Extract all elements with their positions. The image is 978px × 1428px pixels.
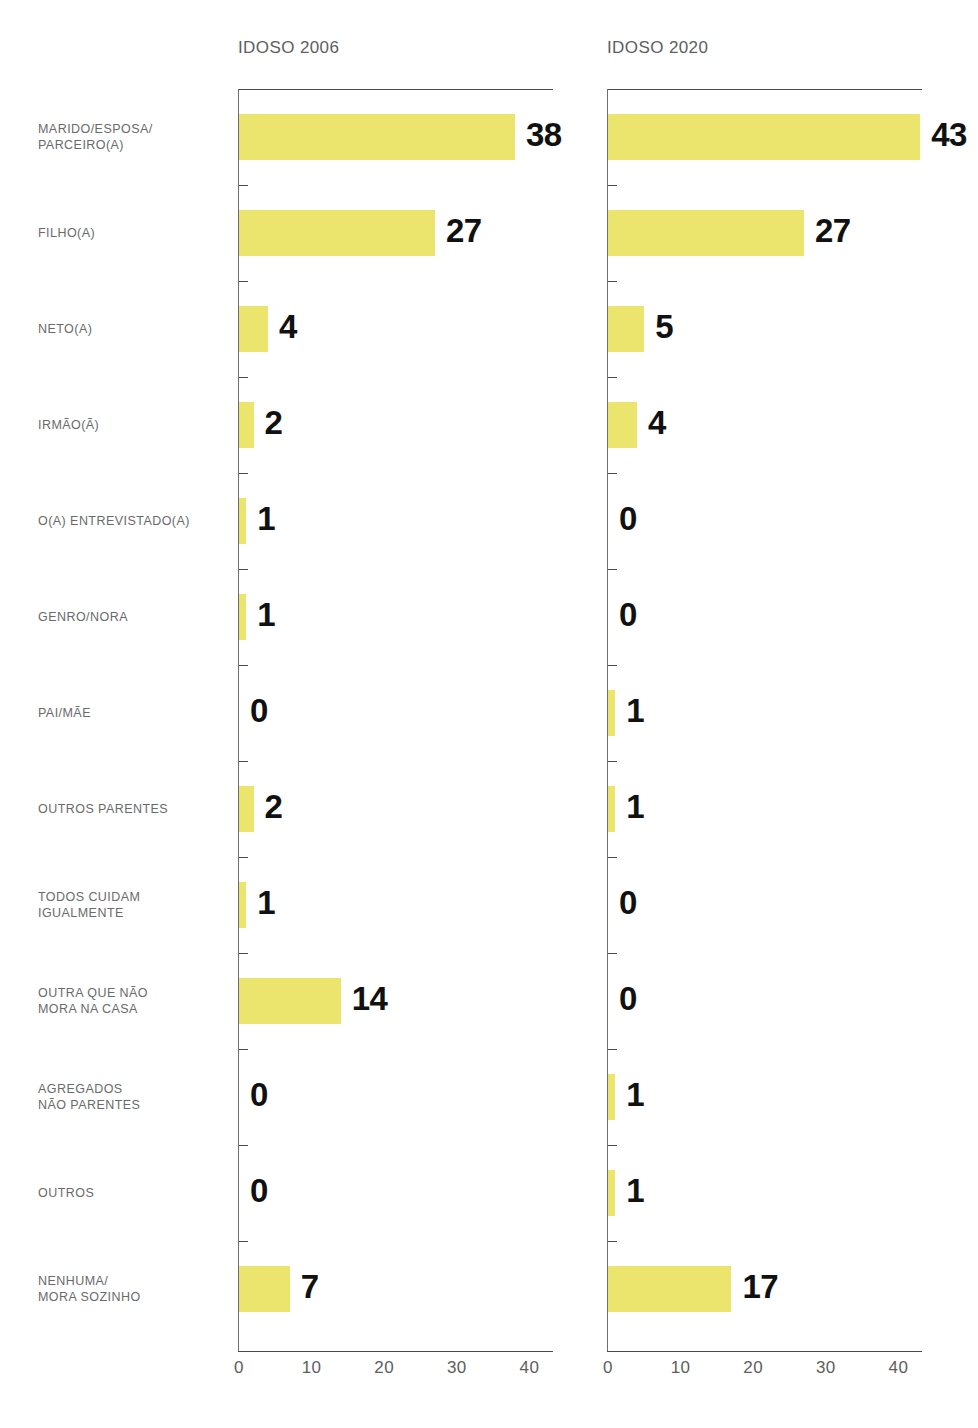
bar-value-label: 27: [446, 207, 482, 255]
x-axis-tick-label: 40: [889, 1358, 909, 1378]
y-axis-tick: [239, 1241, 248, 1242]
bar-row: 1: [238, 857, 554, 953]
bar-row: 1: [607, 1145, 923, 1241]
bar-value-label: 1: [626, 1071, 644, 1119]
bar: [239, 114, 515, 160]
x-axis-ticks-idoso-2006: 010203040: [238, 1358, 568, 1388]
y-axis-tick: [239, 1145, 248, 1146]
category-label: OUTROS PARENTES: [38, 761, 228, 857]
bar-value-label: 0: [250, 1071, 268, 1119]
bar-row: 14: [238, 953, 554, 1049]
bar-row: 1: [238, 473, 554, 569]
category-label: IRMÃO(Ã): [38, 377, 228, 473]
bar: [239, 402, 254, 448]
bar-row: 2: [238, 377, 554, 473]
panel-title-idoso-2020: IDOSO 2020: [607, 38, 708, 58]
x-axis-ticks-idoso-2020: 010203040: [607, 1358, 937, 1388]
y-axis-tick: [239, 665, 248, 666]
bar: [239, 594, 246, 640]
y-axis-tick: [608, 281, 617, 282]
bar-row: 38: [238, 89, 554, 185]
bar: [608, 402, 637, 448]
x-axis-tick-label: 40: [520, 1358, 540, 1378]
y-axis-tick: [608, 569, 617, 570]
bar-value-label: 1: [257, 879, 275, 927]
bar-row: 17: [607, 1241, 923, 1337]
bar-value-label: 1: [257, 591, 275, 639]
category-label-column: MARIDO/ESPOSA/ PARCEIRO(A)FILHO(A)NETO(A…: [38, 89, 228, 1337]
bar-row: 1: [607, 1049, 923, 1145]
y-axis-tick: [608, 953, 617, 954]
bar-value-label: 2: [265, 783, 283, 831]
bar-row: 1: [607, 761, 923, 857]
panel-idoso-2006: 3827421102114007: [238, 89, 554, 1352]
category-label: O(A) ENTREVISTADO(A): [38, 473, 228, 569]
category-label: OUTRA QUE NÃO MORA NA CASA: [38, 953, 228, 1049]
bar-value-label: 43: [931, 111, 967, 159]
bar: [608, 306, 644, 352]
bar-value-label: 0: [619, 591, 637, 639]
dual-bar-chart: IDOSO 2006 IDOSO 2020 MARIDO/ESPOSA/ PAR…: [0, 0, 978, 1428]
y-axis-tick: [239, 857, 248, 858]
y-axis-tick: [608, 665, 617, 666]
x-axis-tick-label: 20: [743, 1358, 763, 1378]
x-axis-tick-label: 10: [671, 1358, 691, 1378]
bar: [239, 498, 246, 544]
bar: [608, 114, 920, 160]
x-axis-tick-label: 0: [603, 1358, 613, 1378]
x-axis-tick-label: 30: [447, 1358, 467, 1378]
y-axis-tick: [608, 377, 617, 378]
x-axis-tick-label: 10: [302, 1358, 322, 1378]
bar-value-label: 17: [742, 1263, 778, 1311]
y-axis-tick: [239, 281, 248, 282]
y-axis-tick: [608, 857, 617, 858]
x-axis-line: [238, 1351, 553, 1352]
bar: [239, 306, 268, 352]
y-axis-tick: [608, 761, 617, 762]
bar-row: 27: [607, 185, 923, 281]
y-axis-tick: [608, 1145, 617, 1146]
y-axis-tick: [239, 1049, 248, 1050]
bar-value-label: 38: [526, 111, 562, 159]
panel-title-idoso-2006: IDOSO 2006: [238, 38, 339, 58]
bar-row: 0: [238, 665, 554, 761]
bar: [608, 1266, 731, 1312]
panel-idoso-2020: 4327540011001117: [607, 89, 923, 1352]
bar-row: 0: [607, 857, 923, 953]
bar: [239, 210, 435, 256]
bar-value-label: 0: [250, 687, 268, 735]
y-axis-tick: [608, 1049, 617, 1050]
x-axis-tick-label: 0: [234, 1358, 244, 1378]
bar: [239, 1266, 290, 1312]
category-label: NENHUMA/ MORA SOZINHO: [38, 1241, 228, 1337]
bar: [239, 978, 341, 1024]
y-axis-tick: [239, 377, 248, 378]
category-label: GENRO/NORA: [38, 569, 228, 665]
bar-value-label: 2: [265, 399, 283, 447]
category-label: MARIDO/ESPOSA/ PARCEIRO(A): [38, 89, 228, 185]
x-axis-line: [607, 1351, 922, 1352]
bar-row: 2: [238, 761, 554, 857]
bar-value-label: 4: [279, 303, 297, 351]
bar: [608, 786, 615, 832]
bar-row: 4: [607, 377, 923, 473]
bar-row: 0: [607, 473, 923, 569]
bar-row: 43: [607, 89, 923, 185]
y-axis-tick: [608, 473, 617, 474]
bar-value-label: 1: [626, 1167, 644, 1215]
category-label: AGREGADOS NÃO PARENTES: [38, 1049, 228, 1145]
bar-value-label: 1: [626, 783, 644, 831]
y-axis-tick: [608, 185, 617, 186]
bar-value-label: 1: [257, 495, 275, 543]
bar-value-label: 0: [619, 975, 637, 1023]
bar: [608, 690, 615, 736]
bar-row: 0: [238, 1049, 554, 1145]
bar-row: 7: [238, 1241, 554, 1337]
y-axis-tick: [608, 1241, 617, 1242]
category-label: NETO(A): [38, 281, 228, 377]
bar-value-label: 0: [619, 495, 637, 543]
bar-row: 0: [238, 1145, 554, 1241]
bar-row: 1: [607, 665, 923, 761]
category-label: TODOS CUIDAM IGUALMENTE: [38, 857, 228, 953]
bar-value-label: 14: [352, 975, 388, 1023]
